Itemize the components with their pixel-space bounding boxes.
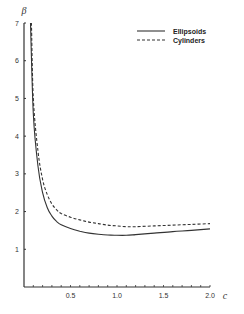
y-tick-label: 7 — [15, 20, 19, 27]
y-tick-label: 6 — [15, 57, 19, 64]
legend-label-ellipsoids: Ellipsoids — [173, 28, 206, 36]
y-tick-label: 5 — [15, 95, 19, 102]
legend-label-cylinders: Cylinders — [173, 37, 205, 45]
legend: EllipsoidsCylinders — [137, 28, 206, 45]
series-ellipsoids — [31, 23, 211, 235]
y-tick-label: 1 — [15, 246, 19, 253]
y-tick-label: 3 — [15, 170, 19, 177]
x-axis-label: c — [223, 290, 228, 301]
y-axis-label: β — [21, 5, 27, 16]
x-tick-label: 1.0 — [112, 292, 122, 299]
y-tick-label: 4 — [15, 133, 19, 140]
x-tick-label: 0.5 — [66, 292, 76, 299]
axes: 12345670.51.01.52.0βc — [15, 5, 228, 301]
series-cylinders — [31, 23, 210, 227]
x-tick-label: 1.5 — [159, 292, 169, 299]
x-tick-label: 2.0 — [205, 292, 215, 299]
y-tick-label: 2 — [15, 208, 19, 215]
chart: 12345670.51.01.52.0βc EllipsoidsCylinder… — [0, 0, 244, 314]
series-lines — [31, 23, 211, 235]
